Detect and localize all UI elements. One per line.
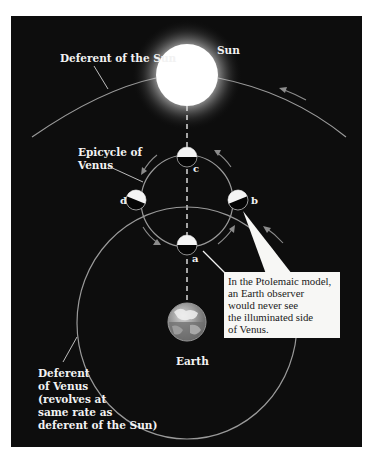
earth-icon xyxy=(168,303,206,342)
diagram-canvas: In the Ptolemaic model, an Earth observe… xyxy=(0,0,371,457)
venus-position-a xyxy=(177,235,197,255)
deferent-of-sun-label: Deferent of the Sun xyxy=(60,52,177,64)
position-label-a: a xyxy=(192,253,199,264)
earth-label: Earth xyxy=(176,355,209,367)
sun-label: Sun xyxy=(217,44,240,56)
ptolemaic-venus-diagram: In the Ptolemaic model, an Earth observe… xyxy=(0,0,371,457)
position-label-c: c xyxy=(193,163,199,174)
position-label-b: b xyxy=(251,195,258,206)
position-label-d: d xyxy=(120,195,127,206)
